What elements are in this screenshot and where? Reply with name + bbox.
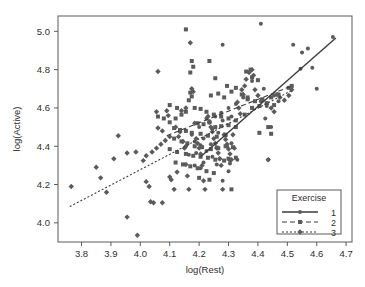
y-tick-label: 4.0	[37, 217, 50, 228]
data-point	[206, 156, 210, 160]
series-2	[156, 27, 294, 191]
x-tick-label: 3.8	[75, 248, 88, 259]
data-point	[190, 131, 194, 135]
data-point	[227, 169, 231, 173]
data-point	[144, 153, 149, 158]
data-point	[216, 150, 221, 155]
data-point	[175, 106, 179, 110]
data-point	[227, 106, 231, 110]
data-point	[221, 179, 225, 183]
legend-label-2: 2	[331, 218, 336, 228]
data-point	[213, 125, 217, 129]
data-point	[191, 154, 195, 158]
data-point	[206, 134, 210, 138]
data-point	[204, 169, 208, 173]
data-point	[259, 22, 263, 26]
data-point	[197, 125, 201, 129]
data-point	[257, 131, 261, 135]
y-tick-label: 4.6	[37, 102, 50, 113]
data-point	[234, 86, 238, 90]
y-tick-label: 4.4	[37, 141, 50, 152]
data-point	[263, 116, 267, 120]
data-point	[256, 78, 260, 82]
data-point	[242, 83, 247, 88]
data-point	[250, 106, 254, 110]
data-point	[184, 27, 188, 31]
data-point	[271, 109, 276, 114]
fit-line-1	[201, 38, 336, 157]
data-point	[207, 178, 211, 182]
data-point	[144, 179, 149, 184]
data-point	[229, 90, 233, 94]
data-point	[246, 97, 250, 101]
data-point	[155, 69, 160, 74]
data-point	[230, 132, 235, 137]
data-point	[213, 76, 217, 80]
data-point	[184, 129, 188, 133]
data-point	[190, 94, 194, 98]
data-point	[124, 150, 129, 155]
data-point	[94, 165, 99, 170]
data-point	[156, 115, 160, 119]
data-point	[191, 65, 195, 69]
chart-container: 3.83.94.04.14.24.34.44.54.64.7log(Rest)4…	[0, 0, 365, 287]
data-point	[227, 151, 232, 156]
data-point	[202, 187, 207, 192]
data-point	[188, 40, 193, 45]
data-point	[176, 134, 181, 139]
legend-marker-1	[298, 210, 302, 214]
x-tick-label: 3.9	[104, 248, 117, 259]
data-point	[135, 233, 140, 238]
data-point	[124, 214, 129, 219]
data-point	[213, 158, 217, 162]
scatter-plot: 3.83.94.04.14.24.34.44.54.64.7log(Rest)4…	[0, 0, 365, 287]
data-point	[266, 157, 271, 162]
data-point	[227, 116, 231, 120]
x-tick-label: 4.7	[340, 248, 353, 259]
data-point	[215, 162, 219, 166]
data-point	[221, 43, 225, 47]
data-point	[193, 144, 197, 148]
data-point	[184, 152, 188, 156]
data-point	[255, 93, 260, 98]
data-point	[282, 98, 287, 103]
data-point	[98, 175, 103, 180]
y-tick-label: 4.2	[37, 179, 50, 190]
data-point	[160, 200, 165, 205]
data-point	[220, 187, 225, 192]
data-point	[212, 171, 216, 175]
data-point	[69, 184, 74, 189]
data-point	[104, 190, 109, 195]
data-point	[216, 131, 220, 135]
data-point	[225, 84, 229, 88]
data-point	[174, 169, 179, 174]
data-point	[174, 161, 178, 165]
data-point	[193, 106, 197, 110]
data-point	[168, 103, 172, 107]
legend-title: Exercise	[292, 193, 327, 203]
data-point	[222, 159, 226, 163]
data-point	[185, 173, 190, 178]
data-point	[111, 156, 116, 161]
data-point	[262, 87, 266, 91]
data-point	[187, 98, 191, 102]
data-point	[272, 103, 276, 107]
data-point	[243, 77, 248, 82]
data-point	[223, 137, 228, 142]
data-point	[116, 133, 121, 138]
data-point	[291, 43, 295, 47]
data-point	[146, 184, 151, 189]
data-point	[202, 122, 206, 126]
data-point	[310, 66, 314, 70]
x-tick-label: 4.4	[251, 248, 264, 259]
data-point	[168, 147, 172, 151]
data-point	[149, 149, 154, 154]
data-point	[218, 163, 223, 168]
data-point	[239, 87, 244, 92]
legend-label-3: 3	[331, 228, 336, 238]
data-point	[209, 93, 213, 97]
data-point	[133, 149, 138, 154]
data-point	[188, 164, 192, 168]
x-tick-label: 4.0	[134, 248, 147, 259]
data-point	[204, 110, 208, 114]
